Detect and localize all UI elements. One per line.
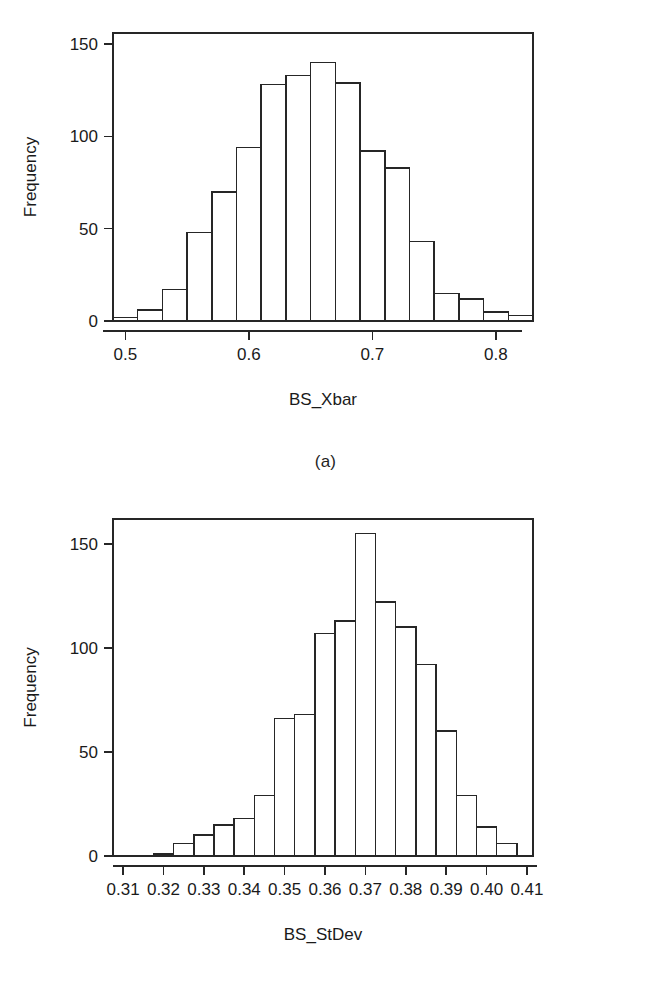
histogram-bar: [138, 310, 163, 321]
x-tick-label: 0.8: [484, 345, 508, 364]
figure-a-caption: (a): [0, 452, 651, 472]
histogram-bar: [416, 665, 436, 856]
x-axis-title: BS_StDev: [284, 925, 363, 944]
figure-b-bs-stdev: 0501001500.310.320.330.340.350.360.370.3…: [0, 500, 651, 1001]
histogram-bar: [174, 844, 194, 856]
histogram-bar: [436, 731, 456, 856]
x-tick-label: 0.35: [268, 880, 301, 899]
histogram-bar: [497, 844, 517, 856]
x-tick-label: 0.38: [389, 880, 422, 899]
x-tick-label: 0.5: [114, 345, 138, 364]
histogram-bar: [194, 835, 214, 856]
y-tick-label: 50: [79, 743, 98, 762]
y-tick-label: 150: [70, 35, 98, 54]
figure-a-bs-xbar: 0501001500.50.60.70.8BS_XbarFrequency (a…: [0, 0, 651, 500]
histogram-bar: [212, 192, 237, 321]
y-tick-label: 0: [89, 847, 98, 866]
histogram-bar: [385, 168, 410, 321]
x-tick-label: 0.36: [308, 880, 341, 899]
x-tick-label: 0.41: [510, 880, 543, 899]
histogram-bars: [153, 534, 516, 856]
histogram-bar: [335, 621, 355, 856]
y-axis-title: Frequency: [21, 647, 40, 728]
histogram-bar: [113, 317, 138, 321]
x-tick-label: 0.34: [228, 880, 261, 899]
histogram-bar: [275, 719, 295, 856]
histogram-bar: [335, 83, 360, 321]
histogram-bar: [295, 715, 315, 856]
histogram-bar: [396, 627, 416, 856]
histogram-bar: [254, 796, 274, 856]
x-tick-label: 0.33: [187, 880, 220, 899]
y-tick-label: 100: [70, 639, 98, 658]
histogram-bar: [355, 534, 375, 856]
x-tick-label: 0.7: [361, 345, 385, 364]
histogram-bs-xbar: 0501001500.50.60.70.8BS_XbarFrequency: [0, 0, 651, 452]
histogram-bar: [162, 290, 187, 321]
histogram-bs-stdev: 0501001500.310.320.330.340.350.360.370.3…: [0, 500, 651, 955]
histogram-bar: [311, 63, 336, 321]
histogram-bar: [459, 299, 484, 321]
y-tick-label: 100: [70, 127, 98, 146]
histogram-bar: [476, 827, 496, 856]
x-tick-label: 0.6: [237, 345, 261, 364]
y-axis-title: Frequency: [21, 136, 40, 217]
histogram-bar: [360, 151, 385, 321]
x-tick-label: 0.37: [349, 880, 382, 899]
histogram-bar: [409, 242, 434, 321]
histogram-bar: [484, 312, 509, 321]
histogram-bar: [315, 633, 335, 856]
histogram-bar: [234, 819, 254, 856]
histogram-bars: [113, 63, 533, 321]
x-axis-title: BS_Xbar: [289, 390, 357, 409]
y-tick-label: 0: [89, 312, 98, 331]
y-tick-label: 150: [70, 535, 98, 554]
x-tick-label: 0.32: [147, 880, 180, 899]
histogram-bar: [261, 85, 286, 321]
histogram-bar: [456, 796, 476, 856]
x-tick-label: 0.40: [470, 880, 503, 899]
x-tick-label: 0.39: [430, 880, 463, 899]
histogram-bar: [214, 825, 234, 856]
histogram-bar: [434, 293, 459, 321]
histogram-bar: [187, 232, 212, 321]
histogram-bar: [237, 147, 262, 321]
histogram-bar: [286, 75, 311, 321]
x-tick-label: 0.31: [107, 880, 140, 899]
histogram-bar: [376, 602, 396, 856]
histogram-bar: [153, 854, 173, 856]
y-tick-label: 50: [79, 220, 98, 239]
